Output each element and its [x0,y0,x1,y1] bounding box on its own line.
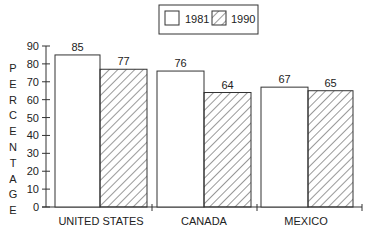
svg-text:R: R [9,94,17,106]
y-axis-label: PERCENTAGE [9,62,18,216]
svg-text:T: T [10,157,17,169]
svg-text:C: C [9,109,17,121]
svg-text:E: E [9,204,16,216]
bar-value-label: 76 [174,57,186,69]
bar-chart: 1981 1990 PERCENTAGE 0102030405060708090… [0,0,365,232]
legend: 1981 1990 [159,5,258,34]
svg-text:A: A [9,173,17,185]
y-tick-label: 30 [27,147,39,159]
y-tick-label: 20 [27,165,39,177]
bar-value-label: 77 [117,55,129,67]
category-label: UNITED STATES [58,215,143,227]
y-axis: 0102030405060708090 [27,40,50,213]
category-label: CANADA [181,215,228,227]
bar-1990 [100,69,147,207]
bar-1981 [261,87,308,207]
y-tick-label: 60 [27,94,39,106]
legend-label-1990: 1990 [231,13,255,25]
bar-value-label: 64 [221,79,233,91]
svg-text:G: G [9,188,18,200]
bar-1981 [157,71,204,207]
legend-swatch-1990 [212,11,226,25]
category-label: MEXICO [284,215,328,227]
bar-value-label: 65 [324,77,336,89]
bars: 857776646765 [55,41,353,207]
bar-1990 [204,93,251,207]
bar-value-label: 67 [278,73,290,85]
x-axis-labels: UNITED STATESCANADAMEXICO [58,215,328,227]
svg-text:E: E [9,78,16,90]
y-tick-label: 40 [27,129,39,141]
y-tick-label: 0 [33,201,39,213]
legend-swatch-1981 [165,11,179,25]
y-tick-label: 90 [27,40,39,52]
svg-text:E: E [9,125,16,137]
y-tick-label: 80 [27,58,39,70]
svg-text:P: P [9,62,16,74]
bar-1981 [55,55,100,207]
y-tick-label: 70 [27,76,39,88]
y-tick-label: 50 [27,112,39,124]
legend-label-1981: 1981 [185,13,209,25]
bar-1990 [308,91,353,207]
svg-text:N: N [9,141,17,153]
y-tick-label: 10 [27,183,39,195]
bar-value-label: 85 [71,41,83,53]
